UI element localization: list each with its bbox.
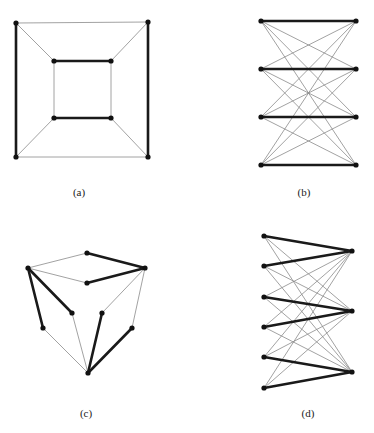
panel-c-label: (c) [80,407,93,420]
panel-b-label: (b) [298,186,311,199]
matching-edge [264,236,352,251]
panel-c: (c) [25,250,147,420]
vertex-o_bl [13,154,18,159]
matching-edge [87,268,145,283]
panel-a: (a) [13,19,150,199]
matching-edge [264,357,352,372]
panel-d: (d) [261,233,354,420]
vertex-lowerR [129,325,134,330]
vertex-R2 [353,66,358,71]
vertex-innerL [69,310,74,315]
vertex-L6 [261,385,266,390]
vertex-R4 [353,162,358,167]
graph-edge [132,268,145,328]
vertex-top [84,250,89,255]
vertex-innerR [99,310,104,315]
matching-edge [264,372,352,388]
graph-edge [16,23,54,61]
vertex-L2 [258,66,263,71]
vertex-o_tr [145,19,150,24]
vertex-L5 [261,354,266,359]
vertex-L2 [261,263,266,268]
vertex-right [142,265,147,270]
panel-d-edges [264,236,352,388]
panel-d-label: (d) [302,407,315,420]
graph-edge [16,118,54,157]
vertex-center [84,280,89,285]
vertex-lowerL [40,325,45,330]
graph-edge [43,328,88,373]
vertex-L1 [261,233,266,238]
graph-edge [264,251,352,327]
panel-b: (b) [258,18,358,199]
vertex-R2 [349,308,354,313]
vertex-o_br [145,154,150,159]
matching-edge [88,328,132,373]
vertex-left [25,265,30,270]
panel-c-edges [28,253,145,373]
graph-edge [111,22,148,61]
panel-a-label: (a) [73,186,86,199]
vertex-i_br [108,115,113,120]
graph-edge [264,311,352,388]
graph-edge [72,313,88,373]
vertex-bottom [85,370,90,375]
vertex-i_bl [51,115,56,120]
panel-a-edges [16,22,148,157]
graph-figure: (a) (b) (c) (d) [0,0,374,433]
panel-b-edges [261,21,356,165]
graph-edge [111,118,148,157]
vertex-L3 [258,114,263,119]
vertex-R3 [349,369,354,374]
vertex-L4 [258,162,263,167]
matching-edge [87,253,145,268]
vertex-i_tr [108,58,113,63]
graph-edge [28,253,87,268]
vertex-L3 [261,294,266,299]
vertex-R3 [353,114,358,119]
vertex-R1 [349,248,354,253]
matching-edge [264,251,352,266]
vertex-R1 [353,18,358,23]
panel-c-vertices [25,250,147,375]
matching-edge [264,311,352,327]
vertex-o_tl [13,20,18,25]
vertex-L1 [258,18,263,23]
vertex-i_tl [51,58,56,63]
graph-edge [16,22,148,23]
vertex-L4 [261,324,266,329]
